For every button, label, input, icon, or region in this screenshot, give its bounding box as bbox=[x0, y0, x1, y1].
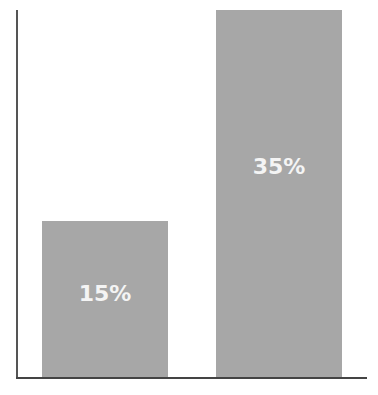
bar-35-percent: 35% bbox=[216, 10, 342, 377]
y-axis-line bbox=[16, 10, 18, 378]
bar-value-label: 35% bbox=[216, 154, 342, 179]
bar-chart: 15% 35% bbox=[0, 0, 378, 395]
bar-value-label: 15% bbox=[42, 281, 168, 306]
x-axis-line bbox=[16, 377, 367, 379]
bar-15-percent: 15% bbox=[42, 221, 168, 377]
